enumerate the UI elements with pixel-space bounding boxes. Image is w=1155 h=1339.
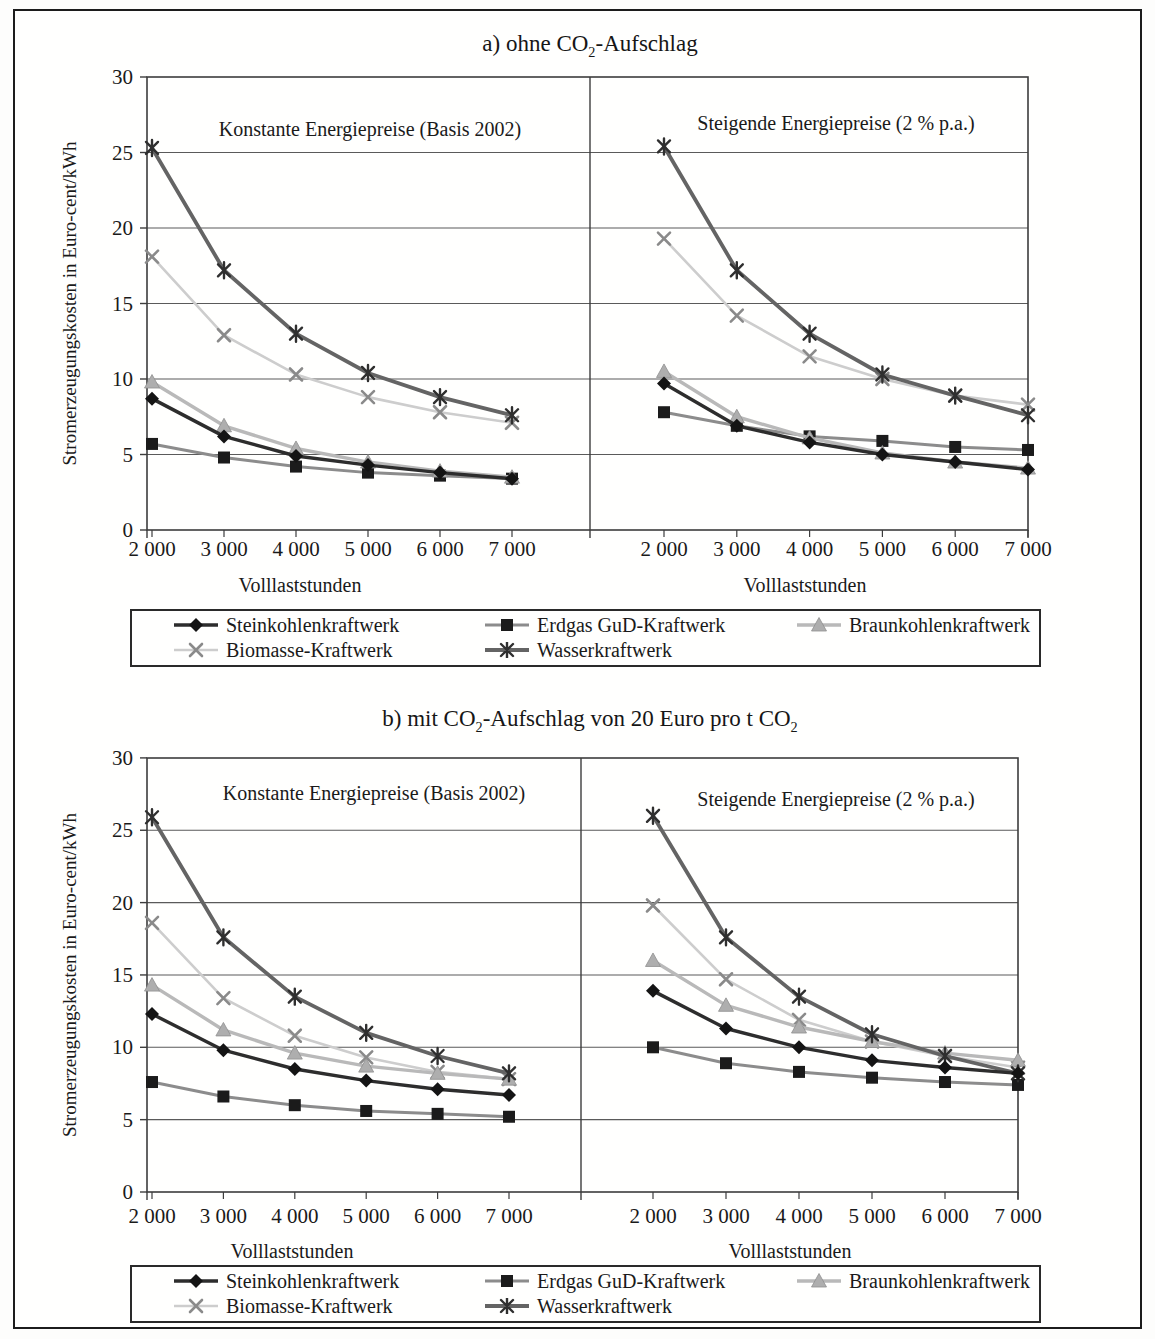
- x-tick-label: 2 000: [128, 537, 175, 561]
- charts-canvas: 051015202530Stromerzeugungskosten in Eur…: [0, 0, 1155, 1339]
- braunkohle-triangle-marker-icon: [796, 1273, 842, 1289]
- y-tick-label: 20: [112, 216, 133, 240]
- series-wasserkraftwerk: [647, 808, 1024, 1082]
- x-tick-label: 6 000: [416, 537, 463, 561]
- steinkohle-diamond-marker-icon: [173, 1273, 219, 1289]
- x-tick-label: 3 000: [200, 537, 247, 561]
- series-braunkohlenkraftwerk: [657, 364, 1036, 474]
- x-tick-label: 6 000: [932, 537, 979, 561]
- x-tick-label: 3 000: [702, 1204, 749, 1228]
- subchart-label: Konstante Energiepreise (Basis 2002): [219, 118, 521, 141]
- x-tick-label: 7 000: [1004, 537, 1051, 561]
- y-tick-label: 5: [123, 1108, 134, 1132]
- panel-b-subchart-0: Konstante Energiepreise (Basis 2002)2 00…: [128, 782, 532, 1262]
- legend-item: Erdgas GuD-Kraftwerk: [484, 1269, 725, 1293]
- wasserkraft-asterisk-marker-icon: [484, 1298, 530, 1314]
- y-tick-label: 10: [112, 367, 133, 391]
- series-braunkohlenkraftwerk: [145, 978, 517, 1086]
- y-tick-label: 5: [123, 443, 134, 467]
- legend-item: Wasserkraftwerk: [484, 638, 672, 662]
- x-tick-label: 6 000: [414, 1204, 461, 1228]
- legend-label: Steinkohlenkraftwerk: [226, 614, 399, 637]
- series-steinkohlenkraftwerk: [646, 984, 1025, 1080]
- legend-item: Wasserkraftwerk: [484, 1294, 672, 1318]
- x-tick-label: 5 000: [859, 537, 906, 561]
- series-braunkohlenkraftwerk: [646, 953, 1026, 1066]
- series-erdgas-gud-kraftwerk: [146, 1076, 515, 1123]
- wasserkraft-asterisk-marker-icon: [484, 642, 530, 658]
- x-tick-label: 4 000: [271, 1204, 318, 1228]
- series-wasserkraftwerk: [146, 140, 518, 423]
- panel-b-plot: 051015202530Stromerzeugungskosten in Eur…: [59, 746, 1042, 1262]
- x-tick-label: 4 000: [272, 537, 319, 561]
- biomasse-x-marker-icon: [173, 642, 219, 658]
- gridlines: [147, 153, 1028, 455]
- series-steinkohlenkraftwerk: [145, 1007, 516, 1102]
- subchart-label: Steigende Energiepreise (2 % p.a.): [697, 788, 974, 811]
- legend-label: Biomasse-Kraftwerk: [226, 639, 393, 662]
- y-axis-title: Stromerzeugungskosten in Euro-cent/kWh: [59, 141, 80, 465]
- series-braunkohlenkraftwerk: [145, 375, 520, 484]
- erdgas-square-marker-icon: [484, 1273, 530, 1289]
- x-tick-label: 3 000: [713, 537, 760, 561]
- x-tick-label: 2 000: [629, 1204, 676, 1228]
- legend-item: Braunkohlenkraftwerk: [796, 613, 1030, 637]
- panel-a-plot: 051015202530Stromerzeugungskosten in Eur…: [59, 65, 1052, 596]
- legend-label: Wasserkraftwerk: [537, 639, 672, 662]
- legend-label: Braunkohlenkraftwerk: [849, 1270, 1030, 1293]
- y-axis: 051015202530: [112, 65, 147, 542]
- panel-b-subchart-1: Steigende Energiepreise (2 % p.a.)2 0003…: [629, 788, 1041, 1262]
- panel-a-legend: Steinkohlenkraftwerk Erdgas GuD-Kraftwer…: [130, 609, 1041, 667]
- x-tick-label: 4 000: [786, 537, 833, 561]
- panel-b-legend: Steinkohlenkraftwerk Erdgas GuD-Kraftwer…: [130, 1265, 1041, 1323]
- legend-item: Steinkohlenkraftwerk: [173, 1269, 399, 1293]
- x-tick-label: 4 000: [775, 1204, 822, 1228]
- x-tick-label: 7 000: [485, 1204, 532, 1228]
- legend-item: Braunkohlenkraftwerk: [796, 1269, 1030, 1293]
- braunkohle-triangle-marker-icon: [796, 617, 842, 633]
- y-tick-label: 15: [112, 292, 133, 316]
- y-tick-label: 30: [112, 746, 133, 770]
- y-tick-label: 10: [112, 1035, 133, 1059]
- x-tick-label: 2 000: [640, 537, 687, 561]
- legend-item: Erdgas GuD-Kraftwerk: [484, 613, 725, 637]
- biomasse-x-marker-icon: [173, 1298, 219, 1314]
- y-tick-label: 0: [123, 1180, 134, 1204]
- legend-label: Erdgas GuD-Kraftwerk: [537, 1270, 725, 1293]
- x-tick-label: 3 000: [200, 1204, 247, 1228]
- x-axis-title: Volllaststunden: [729, 1240, 852, 1262]
- x-axis-title: Volllaststunden: [239, 574, 362, 596]
- panel-a-subchart-0: Konstante Energiepreise (Basis 2002)2 00…: [128, 118, 535, 596]
- steinkohle-diamond-marker-icon: [173, 617, 219, 633]
- legend-item: Steinkohlenkraftwerk: [173, 613, 399, 637]
- legend-item: Biomasse-Kraftwerk: [173, 638, 393, 662]
- y-tick-label: 30: [112, 65, 133, 89]
- subchart-label: Konstante Energiepreise (Basis 2002): [223, 782, 525, 805]
- legend-label: Steinkohlenkraftwerk: [226, 1270, 399, 1293]
- y-tick-label: 25: [112, 141, 133, 165]
- series-wasserkraftwerk: [658, 138, 1034, 423]
- x-tick-label: 5 000: [343, 1204, 390, 1228]
- y-tick-label: 25: [112, 818, 133, 842]
- x-tick-label: 5 000: [344, 537, 391, 561]
- gridlines: [147, 830, 1018, 1119]
- legend-item: Biomasse-Kraftwerk: [173, 1294, 393, 1318]
- series-erdgas-gud-kraftwerk: [647, 1041, 1024, 1091]
- x-tick-label: 5 000: [848, 1204, 895, 1228]
- series-steinkohlenkraftwerk: [657, 377, 1035, 477]
- legend-label: Braunkohlenkraftwerk: [849, 614, 1030, 637]
- x-axis-title: Volllaststunden: [744, 574, 867, 596]
- x-axis-title: Volllaststunden: [231, 1240, 354, 1262]
- x-tick-label: 2 000: [128, 1204, 175, 1228]
- subchart-label: Steigende Energiepreise (2 % p.a.): [697, 112, 974, 135]
- y-axis: 051015202530: [112, 746, 147, 1204]
- x-tick-label: 7 000: [994, 1204, 1041, 1228]
- x-tick-label: 7 000: [488, 537, 535, 561]
- y-tick-label: 20: [112, 891, 133, 915]
- y-tick-label: 15: [112, 963, 133, 987]
- figure: a) ohne CO2-Aufschlag b) mit CO2-Aufschl…: [0, 0, 1155, 1339]
- erdgas-square-marker-icon: [484, 617, 530, 633]
- panel-a-subchart-1: Steigende Energiepreise (2 % p.a.)2 0003…: [640, 112, 1051, 596]
- series-biomasse-kraftwerk: [658, 233, 1034, 411]
- legend-label: Wasserkraftwerk: [537, 1295, 672, 1318]
